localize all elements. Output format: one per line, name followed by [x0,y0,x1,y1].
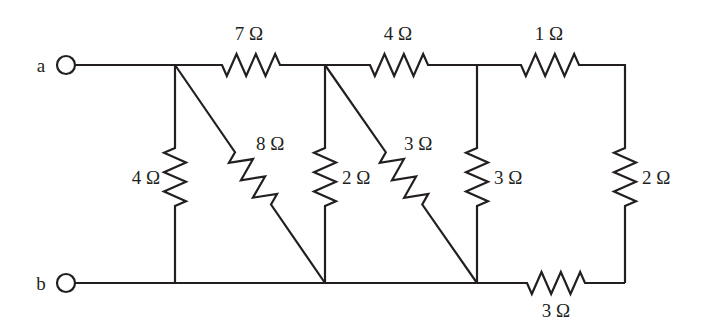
r-3ohm-mid-label: 3 Ω [494,167,522,188]
r-7ohm [175,54,325,76]
r-8ohm-diagonal-label: 8 Ω [256,133,284,154]
r-4ohm-top-label: 4 Ω [384,23,412,44]
r-3ohm-mid [466,65,488,283]
resistors-layer [164,54,636,294]
r-4ohm-left-label: 4 Ω [132,167,160,188]
r-4ohm-top [325,54,477,76]
r-3ohm-bottom [477,272,625,294]
r-7ohm-label: 7 Ω [235,23,263,44]
terminal-a[interactable] [57,56,75,74]
r-4ohm-left [164,65,186,283]
labels-layer: 7 Ω4 Ω1 Ω3 Ω4 Ω2 Ω3 Ω2 Ω8 Ω3 Ωab [36,23,670,321]
r-2ohm-mid-label: 2 Ω [342,167,370,188]
circuit-svg: 7 Ω4 Ω1 Ω3 Ω4 Ω2 Ω3 Ω2 Ω8 Ω3 Ωab [0,0,708,333]
r-2ohm-mid [314,65,336,283]
terminal-b[interactable] [57,274,75,292]
r-3ohm-bottom-label: 3 Ω [542,300,570,321]
r-1ohm-label: 1 Ω [535,23,563,44]
terminals-layer [57,56,75,292]
circuit-diagram: 7 Ω4 Ω1 Ω3 Ω4 Ω2 Ω3 Ω2 Ω8 Ω3 Ωab [0,0,708,333]
terminal-label-b: b [36,273,46,294]
r-2ohm-right-label: 2 Ω [642,167,670,188]
r-1ohm [477,54,625,76]
r-3ohm-diagonal-label: 3 Ω [404,133,432,154]
terminal-label-a: a [37,55,46,76]
r-2ohm-right [614,65,636,283]
r-8ohm-diagonal [175,65,325,283]
